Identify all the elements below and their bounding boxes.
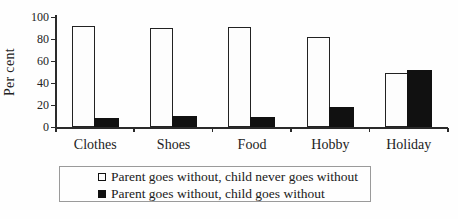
category-label-shoes: Shoes xyxy=(134,137,212,153)
category-label-food: Food xyxy=(213,137,291,153)
bar-holiday-child-never-goes-without xyxy=(385,73,408,127)
x-axis-tick xyxy=(133,128,135,132)
y-axis-tick xyxy=(51,39,56,41)
y-axis-tick xyxy=(51,105,56,107)
x-axis-tick xyxy=(447,128,449,132)
y-axis-tick xyxy=(51,17,56,19)
category-label-hobby: Hobby xyxy=(291,137,369,153)
bar-holiday-child-goes-without xyxy=(407,70,432,127)
black-square-swatch-icon xyxy=(98,190,106,198)
legend-label: Parent goes without, child goes without xyxy=(111,186,325,201)
legend-label: Parent goes without, child never goes wi… xyxy=(111,169,358,184)
y-axis-tick-label: 60 xyxy=(16,55,49,68)
bar-food-child-goes-without xyxy=(250,117,275,127)
legend-item-child-goes-without: Parent goes without, child goes without xyxy=(98,185,370,202)
y-axis-tick-label: 100 xyxy=(16,11,49,24)
bar-shoes-child-never-goes-without xyxy=(150,28,173,127)
y-axis-tick-label: 20 xyxy=(16,99,49,112)
category-label-clothes: Clothes xyxy=(56,137,134,153)
x-axis-tick xyxy=(55,128,57,132)
bar-clothes-child-goes-without xyxy=(94,118,119,127)
white-square-swatch-icon xyxy=(98,173,106,181)
bar-clothes-child-never-goes-without xyxy=(72,26,95,127)
bar-hobby-child-goes-without xyxy=(329,107,354,127)
bar-food-child-never-goes-without xyxy=(228,27,251,127)
category-label-holiday: Holiday xyxy=(370,137,448,153)
y-axis-tick-label: 40 xyxy=(16,77,49,90)
x-axis-tick xyxy=(290,128,292,132)
x-axis-tick xyxy=(369,128,371,132)
bar-shoes-child-goes-without xyxy=(172,116,197,127)
legend-box: Parent goes without, child never goes wi… xyxy=(59,166,371,202)
legend-item-child-never-goes-without: Parent goes without, child never goes wi… xyxy=(98,168,370,185)
y-axis-tick xyxy=(51,83,56,85)
y-axis-tick-label: 80 xyxy=(16,33,49,46)
y-axis-title: Per cent xyxy=(2,38,18,106)
x-axis-tick xyxy=(212,128,214,132)
y-axis-tick-label: 0 xyxy=(16,121,49,134)
bar-hobby-child-never-goes-without xyxy=(307,37,330,127)
y-axis-tick xyxy=(51,61,56,63)
y-axis-line xyxy=(55,15,57,128)
bar-chart-figure: Per cent 020406080100ClothesShoesFoodHob… xyxy=(0,0,458,219)
